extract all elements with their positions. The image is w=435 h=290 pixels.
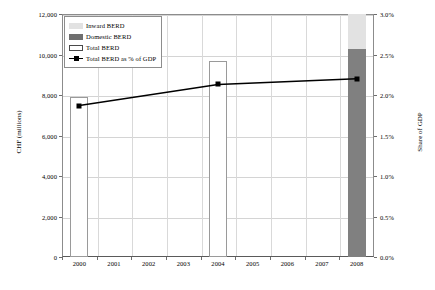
x-axis-tick-label: 2008 xyxy=(337,260,377,267)
secondary-y-axis-tick xyxy=(374,136,377,137)
line-marker-swatch xyxy=(69,56,83,62)
secondary-y-axis-tick-label: 1.0% xyxy=(380,173,420,180)
x-axis-tick xyxy=(270,257,271,260)
inward-berd-swatch xyxy=(69,23,83,29)
legend-item-inward-berd: Inward BERD xyxy=(69,20,156,31)
secondary-y-axis-tick-label: 0.0% xyxy=(380,254,420,261)
y-axis-tick-label: 0 xyxy=(15,254,57,261)
secondary-y-axis-tick-label: 2.5% xyxy=(380,51,420,58)
data-point-marker-2008 xyxy=(354,76,359,81)
secondary-y-axis-tick xyxy=(374,257,377,258)
secondary-y-axis-tick xyxy=(374,55,377,56)
bar-inward-berd-2008 xyxy=(348,14,366,49)
legend-label: Inward BERD xyxy=(86,22,124,29)
x-axis-tick xyxy=(305,257,306,260)
secondary-y-axis-tick xyxy=(374,217,377,218)
gridline-vertical xyxy=(340,15,341,256)
legend-item-total-berd: Total BERD xyxy=(69,42,156,53)
x-axis-tick xyxy=(166,257,167,260)
secondary-y-axis-tick-label: 0.5% xyxy=(380,213,420,220)
x-axis-tick xyxy=(235,257,236,260)
secondary-y-axis-tick xyxy=(374,95,377,96)
secondary-y-axis-tick xyxy=(374,14,377,15)
x-axis-tick xyxy=(339,257,340,260)
x-axis-tick xyxy=(131,257,132,260)
secondary-y-axis-tick xyxy=(374,176,377,177)
secondary-y-axis-tick-label: 2.0% xyxy=(380,92,420,99)
total-berd-swatch xyxy=(69,45,83,51)
chart-legend: Inward BERD Domestic BERD Total BERD Tot… xyxy=(64,16,162,68)
legend-item-total-berd-share-gdp: Total BERD as % of GDP xyxy=(69,53,156,64)
chart-container: CHF (millions) Share of GDP 02,0004,0006… xyxy=(0,0,435,290)
legend-item-domestic-berd: Domestic BERD xyxy=(69,31,156,42)
x-axis-tick xyxy=(62,257,63,260)
x-axis-tick xyxy=(97,257,98,260)
legend-label: Domestic BERD xyxy=(86,33,131,40)
data-point-marker-2000 xyxy=(77,103,82,108)
legend-label: Total BERD xyxy=(86,44,119,51)
data-point-marker-2004 xyxy=(216,82,221,87)
secondary-y-axis-tick-label: 1.5% xyxy=(380,132,420,139)
x-axis-tick xyxy=(201,257,202,260)
legend-label: Total BERD as % of GDP xyxy=(86,55,156,62)
domestic-berd-swatch xyxy=(69,34,83,40)
secondary-y-axis-tick-label: 3.0% xyxy=(380,11,420,18)
